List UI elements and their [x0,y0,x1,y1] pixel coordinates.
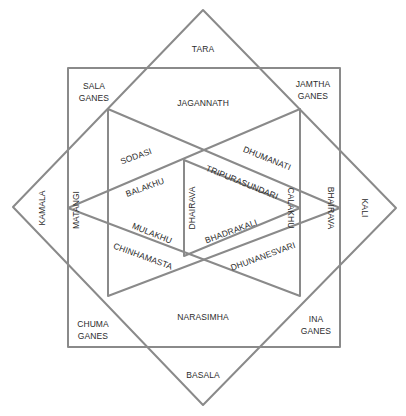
label-narasimha: NARASIMHA [177,312,229,322]
label-jamtha-ganes-1: JAMTHA [296,79,331,89]
diagram-canvas: TARA SALA GANES JAMTHA GANES JAGANNATH S… [0,0,406,416]
label-tripurasundari: TRIPURASUNDARI [205,163,280,201]
label-chuma-ganes-2: GANES [78,331,108,341]
label-jamtha-ganes-2: GANES [298,91,328,101]
label-sala-ganes-1: SALA [83,81,105,91]
label-bhairava: BHAIRAVA [326,187,336,230]
label-tara: TARA [192,44,215,54]
yantra-diagram: TARA SALA GANES JAMTHA GANES JAGANNATH S… [0,0,406,416]
label-balakhu: BALAKHU [124,176,165,199]
label-basala: BASALA [186,370,220,380]
label-kamala: KAMALA [37,190,47,225]
label-ina-ganes-1: INA [309,314,324,324]
label-sala-ganes-2: GANES [79,93,109,103]
label-jagannath: JAGANNATH [177,98,229,108]
label-dhunanesvari: DHUNANESVARI [229,240,296,273]
label-calakhu: CALAKHU [286,188,296,229]
label-sodasi: SODASI [119,146,153,167]
label-matangi: MATANGI [71,191,81,229]
label-ina-ganes-2: GANES [301,326,331,336]
inner-triangle [184,160,300,256]
label-dhumanati: DHUMANATI [242,144,293,172]
label-dhairava: DHAIRAVA [187,186,197,229]
label-kali: KALI [360,199,370,218]
label-chuma-ganes-1: CHUMA [77,319,109,329]
